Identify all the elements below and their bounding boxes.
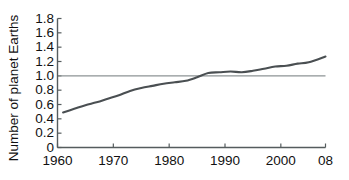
x-tick-label: 2000 [266, 153, 296, 168]
y-axis-title: Number of planet Earths [6, 15, 21, 162]
x-tick-label: 1980 [154, 153, 184, 168]
x-tick-label: 1960 [42, 153, 72, 168]
data-line-ecological-footprint [63, 56, 325, 112]
y-tick-label: 1.2 [35, 54, 54, 69]
y-tick-label: 0.2 [35, 125, 54, 140]
y-axis-tick-labels: 00.20.40.60.81.01.21.41.61.8 [35, 11, 54, 155]
data-series-group [63, 56, 325, 112]
x-axis-tick-labels: 1960197019801990200008 [42, 153, 333, 168]
y-tick-label: 1.8 [35, 11, 54, 26]
x-tick-label: 1990 [210, 153, 240, 168]
y-tick-label: 0.6 [35, 97, 54, 112]
y-tick-label: 0.4 [35, 111, 54, 126]
y-tick-label: 1.4 [35, 39, 54, 54]
x-tick-label: 08 [318, 153, 333, 168]
chart-container: Number of planet Earths 00.20.40.60.81.0… [0, 0, 349, 180]
y-tick-label: 0.8 [35, 82, 54, 97]
y-tick-label: 1.0 [35, 68, 54, 83]
y-tick-label: 1.6 [35, 25, 54, 40]
y-axis-title-text: Number of planet Earths [6, 15, 21, 162]
x-tick-label: 1970 [98, 153, 128, 168]
line-chart: Number of planet Earths 00.20.40.60.81.0… [0, 0, 349, 180]
